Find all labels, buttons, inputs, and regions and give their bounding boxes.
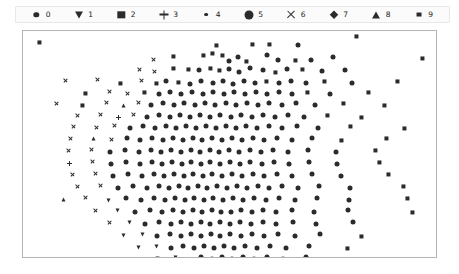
data-point [293,100,299,106]
data-point [152,125,158,131]
data-point [229,171,235,177]
data-point [247,65,253,71]
data-point [303,254,309,258]
data-point [285,149,291,155]
data-point [61,197,66,202]
data-point [420,56,425,61]
data-point [254,125,260,131]
data-point [301,114,307,120]
data-point [116,115,121,120]
data-point [313,221,319,227]
data-point [187,257,192,259]
data-point [341,101,346,106]
legend-label-7: 7 [343,11,348,19]
legend-entry-6[interactable]: 6 [275,7,318,22]
data-point [112,124,117,129]
data-point [125,171,131,177]
data-point [255,183,261,189]
legend-entry-5[interactable]: 5 [233,7,276,22]
data-point [91,136,96,141]
data-point [264,79,269,84]
data-point [410,210,415,215]
data-point [203,123,209,129]
legend-entry-2[interactable]: 2 [105,7,148,22]
data-point [163,123,169,129]
data-point [229,256,235,258]
data-point [68,137,73,142]
data-point [395,79,400,84]
data-point [330,54,336,60]
triangle-down-marker-icon [74,10,83,19]
data-point [271,159,277,165]
data-point [185,185,191,191]
data-point [151,58,156,63]
data-point [191,195,197,201]
data-point [178,233,184,239]
data-point [201,53,206,58]
data-point [223,123,229,129]
data-point [366,90,371,95]
data-point [136,101,141,106]
circle-marker-icon [244,10,253,19]
data-point [261,137,267,143]
data-point [158,149,164,155]
data-point [248,221,254,227]
data-point [303,80,309,86]
data-point [226,58,232,64]
data-point [311,209,317,215]
data-point [274,135,280,141]
data-point [316,183,322,189]
legend-entry-8[interactable]: 8 [360,7,403,22]
data-point [218,209,224,215]
data-point [273,70,278,75]
data-point [137,161,143,167]
data-point [260,207,266,213]
data-point [251,195,257,201]
data-point [80,103,85,108]
legend-entry-3[interactable]: 3 [148,7,191,22]
data-point [169,159,175,165]
data-point [142,221,148,227]
legend-entry-7[interactable]: 7 [318,7,361,22]
data-point [227,159,233,165]
data-point [67,161,72,166]
data-point [149,159,155,165]
data-point [221,91,227,97]
data-point [377,160,382,165]
data-point [210,80,216,86]
data-point [295,42,301,48]
data-point [275,57,281,63]
legend-entry-0[interactable]: 0 [20,7,63,22]
data-point [242,91,248,97]
data-point [107,90,112,95]
data-point [202,100,208,106]
data-point [293,58,298,63]
data-point [338,173,344,179]
legend[interactable]: 0123456789 [15,6,450,23]
data-point [266,185,272,191]
data-point [210,195,216,201]
data-point [217,233,223,239]
data-point [317,231,323,237]
legend-entry-1[interactable]: 1 [63,7,106,22]
data-point [173,125,179,131]
data-point [217,161,223,167]
data-point [305,90,310,95]
legend-entry-4[interactable]: 4 [190,7,233,22]
data-point [289,173,295,179]
data-point [238,233,244,239]
data-point [201,243,207,249]
data-point [136,149,142,155]
data-point [354,34,359,39]
data-point [196,67,202,73]
data-point [273,209,279,215]
data-point [176,183,182,189]
data-point [309,135,315,141]
data-point [178,149,184,155]
data-point [295,185,301,191]
data-point [211,245,217,251]
legend-label-3: 3 [173,11,178,19]
data-point [238,207,244,213]
legend-entry-9[interactable]: 9 [403,7,446,22]
data-point [267,42,272,47]
